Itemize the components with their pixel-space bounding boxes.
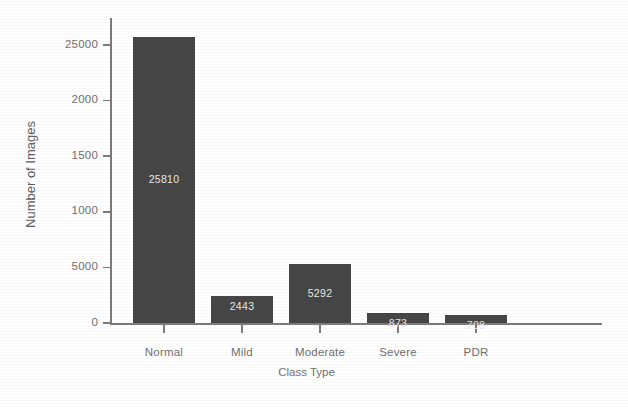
x-axis-title: Class Type <box>0 366 628 378</box>
bar-normal <box>133 37 195 323</box>
x-axis-tick <box>163 324 165 333</box>
x-axis-tick <box>397 324 399 333</box>
x-axis-tick <box>319 324 321 333</box>
x-axis-tick <box>475 324 477 333</box>
bar-pdr <box>445 315 507 323</box>
x-axis-tick-label-mild: Mild <box>231 346 253 358</box>
plot-area: 2581024435292873708 <box>0 0 628 323</box>
bar-mild <box>211 296 273 323</box>
x-axis-spine <box>110 323 602 325</box>
x-axis-tick-label-normal: Normal <box>145 346 183 358</box>
x-axis-tick-label-pdr: PDR <box>464 346 489 358</box>
bar-moderate <box>289 264 351 323</box>
x-axis-tick-label-severe: Severe <box>379 346 417 358</box>
x-axis-tick <box>241 324 243 333</box>
x-axis-tick-label-moderate: Moderate <box>295 346 345 358</box>
x-axis-title-text: Class Type <box>278 366 335 378</box>
bar-severe <box>367 313 429 323</box>
bar-chart-figure: Number of Images 2500020001500100050000 … <box>0 0 628 407</box>
